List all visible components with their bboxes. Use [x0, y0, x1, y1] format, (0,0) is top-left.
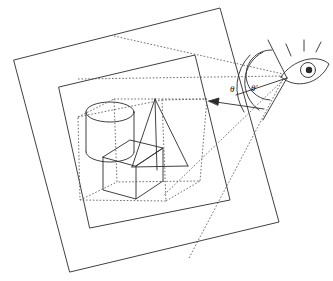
- observer-eye: [281, 40, 329, 84]
- eyelash-right-icon: [316, 42, 321, 52]
- frustum-depth-edge-bl: [80, 182, 117, 200]
- cone-center-edge: [155, 99, 157, 170]
- projection-ray-lower: [189, 79, 283, 258]
- cube-left-face: [103, 157, 136, 199]
- inner-dotted-frustum-near-face: [78, 100, 166, 201]
- angle-arc-theta: [237, 55, 250, 112]
- inner-dotted-frustum-far-face: [114, 99, 207, 182]
- cone-left-side: [132, 99, 155, 167]
- cube-right-face: [136, 148, 163, 199]
- projection-ray-upper: [78, 76, 283, 79]
- figure-canvas: θ θ′: [0, 0, 333, 281]
- projection-ray-bottom: [163, 80, 283, 196]
- cube-shape: [103, 140, 163, 199]
- angle-arc-inner: [246, 50, 272, 100]
- frustum-depth-edge-br: [166, 181, 200, 201]
- angle-label-theta: θ: [230, 85, 234, 94]
- view-arrow-head: [209, 98, 219, 105]
- view-cone-lower-edge: [263, 78, 287, 120]
- cone-base-edge: [132, 166, 188, 167]
- eyelash-left-icon: [286, 44, 291, 56]
- eye-outline: [281, 59, 329, 84]
- line-diagram: [0, 0, 333, 281]
- middle-image-plane: [59, 55, 230, 228]
- outer-image-plane: [14, 8, 279, 272]
- frustum-depth-edge-tl: [78, 99, 114, 117]
- cone-right-side: [155, 99, 188, 166]
- view-cone-upper-edge: [268, 40, 287, 78]
- cone-shape: [132, 99, 188, 170]
- view-direction-arrow: [209, 98, 264, 109]
- cylinder-bottom-arc: [86, 152, 134, 162]
- cylinder-top-ellipse: [86, 102, 134, 122]
- angle-label-theta-prime: θ′: [251, 84, 257, 93]
- angle-arc-theta-prime: [245, 52, 263, 110]
- eye-pupil: [306, 67, 312, 73]
